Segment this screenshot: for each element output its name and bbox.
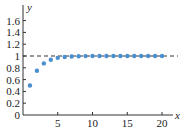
y-tick-label: 1.6 <box>6 15 20 27</box>
data-point <box>160 54 164 58</box>
data-point <box>35 69 39 73</box>
x-tick-label: 20 <box>157 117 169 129</box>
ticks: 510152000.20.40.60.811.21.41.6 <box>6 15 168 129</box>
y-tick-label: 0.4 <box>6 85 20 97</box>
y-axis-label: y <box>26 1 32 13</box>
data-point <box>28 83 32 87</box>
data-point <box>49 57 53 61</box>
data-point <box>90 54 94 58</box>
y-tick-label: 0.8 <box>6 62 20 74</box>
data-point <box>139 54 143 58</box>
data-point <box>76 54 80 58</box>
y-tick-label: 1 <box>15 50 21 62</box>
y-tick-label: 1.4 <box>6 26 20 38</box>
axes <box>23 5 173 115</box>
y-tick-label: 0.2 <box>6 97 20 109</box>
data-point <box>83 54 87 58</box>
data-point <box>104 54 108 58</box>
data-point <box>97 54 101 58</box>
y-tick-label: 0 <box>15 109 21 121</box>
x-tick-label: 10 <box>87 117 99 129</box>
data-point <box>153 54 157 58</box>
data-point <box>62 55 66 59</box>
x-tick-label: 15 <box>122 117 134 129</box>
x-axis-label: x <box>174 109 180 121</box>
data-point <box>42 61 46 65</box>
data-point <box>111 54 115 58</box>
data-point <box>56 56 60 60</box>
data-point <box>146 54 150 58</box>
data-point <box>125 54 129 58</box>
y-tick-label: 1.2 <box>6 38 20 50</box>
y-tick-label: 0.6 <box>6 74 20 86</box>
data-point <box>69 54 73 58</box>
data-points <box>28 54 164 88</box>
data-point <box>132 54 136 58</box>
data-point <box>118 54 122 58</box>
x-tick-label: 5 <box>55 117 61 129</box>
scatter-chart: 510152000.20.40.60.811.21.41.6 x y <box>0 0 191 131</box>
